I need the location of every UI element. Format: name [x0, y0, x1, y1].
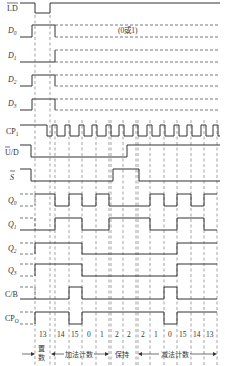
signal-s: S — [10, 169, 220, 182]
signal-label-cp1: CP1 — [6, 127, 19, 137]
signal-label-s: S — [10, 173, 14, 182]
signal-label-up-down: U/D — [5, 148, 19, 157]
signal-label-d3: D3 — [7, 99, 17, 109]
signal-label-q1: Q1 — [8, 220, 17, 230]
signal-d2: D2 — [7, 75, 220, 86]
phase-count-up: 加法计数 — [65, 350, 93, 359]
signal-cp1: CP1 — [6, 125, 220, 137]
count-value: 2 — [141, 330, 145, 339]
signal-d3: D3 — [7, 99, 220, 110]
signal-label-d1: D1 — [7, 51, 17, 61]
time-guide-lines — [35, 15, 217, 366]
phase-hold: 保持 — [115, 350, 129, 359]
count-value: 0 — [168, 330, 172, 339]
signal-q0: Q0 — [8, 194, 217, 206]
count-value: 14 — [193, 330, 201, 339]
phase-preset-line2: 数 — [38, 353, 45, 362]
count-value: 15 — [179, 330, 187, 339]
signal-label-q3: Q3 — [8, 266, 17, 276]
signal-label-carry-borrow: C/B — [5, 290, 18, 299]
signal-ld: LD — [7, 3, 220, 13]
signal-label-d2: D2 — [7, 75, 17, 85]
count-value: 13 — [39, 330, 47, 339]
count-value: 2 — [115, 330, 119, 339]
signal-up-down: U/D — [5, 145, 220, 157]
signal-label-q0: Q0 — [8, 196, 17, 206]
phase-preset-line1: 置 — [38, 345, 45, 353]
count-value: 0 — [87, 330, 91, 339]
signal-q2: Q2 — [8, 243, 217, 254]
signal-label-d0: D0 — [7, 26, 17, 36]
count-values-row: 13 14 15 0 1 2 2 2 1 0 15 14 13 — [39, 330, 214, 339]
signal-label-cp0: CPO — [5, 314, 19, 324]
count-value: 1 — [100, 330, 104, 339]
count-value: 2 — [127, 330, 131, 339]
count-value: 13 — [206, 330, 214, 339]
count-value: 14 — [57, 330, 65, 339]
signal-q3: Q3 — [8, 264, 217, 276]
signal-d0: D0 (0或1) — [7, 25, 220, 37]
phase-labels: 置 数 加法计数 保持 减法计数 — [22, 345, 217, 362]
phase-count-down: 减法计数 — [161, 350, 189, 359]
signal-label-q2: Q2 — [8, 244, 17, 254]
signal-d1: D1 — [7, 50, 220, 62]
count-value: 15 — [71, 330, 79, 339]
timing-diagram: LD D0 (0或1) D1 D2 D3 CP1 U/D — [0, 0, 225, 366]
count-value: 1 — [154, 330, 158, 339]
signal-label-ld: LD — [7, 4, 18, 13]
annotation-0-or-1: (0或1) — [118, 25, 138, 35]
signal-q1: Q1 — [8, 218, 217, 230]
